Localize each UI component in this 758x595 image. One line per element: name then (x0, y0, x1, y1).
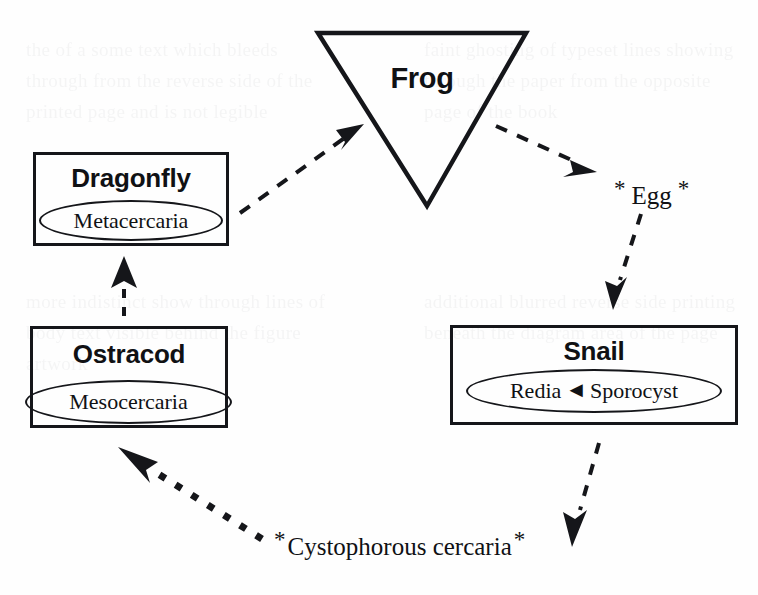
ostracod-label: Ostracod (33, 339, 225, 370)
arrow-frog-to-egg (496, 126, 597, 177)
stage-redia-sporocyst: Redia◄Sporocyst (466, 369, 722, 413)
metacercaria-label: Metacercaria (74, 208, 189, 234)
arrow-dragonfly-to-frog (240, 124, 364, 213)
diagram-canvas: the of a some text which bleeds through … (0, 0, 758, 595)
sporocyst-label: Sporocyst (590, 378, 678, 404)
arrow-snail-to-cercaria (563, 443, 599, 547)
dragonfly-label: Dragonfly (36, 163, 226, 194)
stage-metacercaria: Metacercaria (39, 200, 223, 241)
snail-label: Snail (453, 336, 735, 367)
stage-mesocercaria: Mesocercaria (25, 380, 232, 424)
cercaria-label: Cystophorous cercaria (288, 533, 512, 560)
stage-cystophorous-cercaria: *Cystophorous cercaria* (272, 527, 527, 561)
arrow-ostracod-to-dragonfly (111, 256, 137, 316)
redia-label: Redia (510, 378, 561, 404)
cercaria-asterisk-right: * (512, 527, 528, 552)
mesocercaria-label: Mesocercaria (69, 389, 187, 415)
sporocyst-to-redia-arrow-icon: ◄ (565, 377, 587, 403)
egg-asterisk-left: * (608, 176, 632, 201)
cercaria-asterisk-left: * (272, 527, 288, 552)
egg-label: Egg (632, 182, 672, 209)
frog-triangle (318, 33, 526, 206)
egg-asterisk-right: * (672, 176, 696, 201)
redia-sporocyst-group: Redia◄Sporocyst (510, 378, 678, 404)
frog-label: Frog (318, 62, 526, 95)
arrow-cercaria-to-ostracod (118, 447, 262, 539)
arrow-egg-to-snail (605, 214, 641, 310)
stage-egg: *Egg* (608, 176, 695, 210)
